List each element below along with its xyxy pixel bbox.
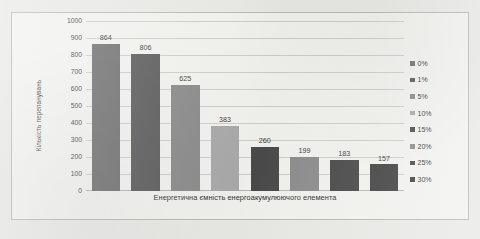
legend-swatch-icon <box>410 127 415 132</box>
legend-item[interactable]: 20% <box>410 138 462 155</box>
bar-slot: 625 <box>171 21 200 191</box>
y-axis-tick-label: 0 <box>40 188 82 195</box>
bar <box>330 160 359 191</box>
legend-swatch-icon <box>410 161 415 166</box>
y-axis-tick-label: 700 <box>40 69 82 76</box>
y-axis-tick-label: 800 <box>40 52 82 59</box>
bar-value-label: 806 <box>140 44 152 51</box>
y-axis-tick-label: 900 <box>40 35 82 42</box>
bar-value-label: 383 <box>219 116 231 123</box>
y-axis-tick-label: 300 <box>40 137 82 144</box>
legend-item-label: 0% <box>418 60 428 67</box>
legend-swatch-icon <box>410 61 415 66</box>
legend-swatch-icon <box>410 78 415 83</box>
legend-item[interactable]: 10% <box>410 105 462 122</box>
y-axis-tick-label: 600 <box>40 86 82 93</box>
y-axis-tick-label: 200 <box>40 154 82 161</box>
bar-slot: 806 <box>131 21 160 191</box>
legend-item[interactable]: 25% <box>410 155 462 172</box>
bar-series: 864806625383260199183157 <box>86 21 404 191</box>
legend-item[interactable]: 15% <box>410 121 462 138</box>
bar <box>171 85 200 191</box>
legend-swatch-icon <box>410 111 415 116</box>
legend-item-label: 1% <box>418 76 428 83</box>
y-axis-tick-label: 500 <box>40 103 82 110</box>
legend-swatch-icon <box>410 177 415 182</box>
bar-value-label: 260 <box>259 137 271 144</box>
chart-plot-wrapper: Кількість перепанувань 10009008007006005… <box>12 13 468 219</box>
y-axis-tick-label: 100 <box>40 171 82 178</box>
chart-container: Кількість перепанувань 10009008007006005… <box>11 12 469 220</box>
legend-swatch-icon <box>410 144 415 149</box>
x-axis-title: Енергетична ємність енергоакумулюючого е… <box>86 193 404 202</box>
bar-slot: 157 <box>370 21 399 191</box>
legend-item[interactable]: 1% <box>410 72 462 89</box>
bar <box>370 164 399 191</box>
legend-item[interactable]: 30% <box>410 171 462 188</box>
bar-slot: 383 <box>211 21 240 191</box>
legend-item-label: 20% <box>418 143 432 150</box>
legend-item-label: 15% <box>418 126 432 133</box>
bar <box>92 44 121 191</box>
legend-item-label: 10% <box>418 110 432 117</box>
y-axis-tick-label: 400 <box>40 120 82 127</box>
chart-legend: 0%1%5%10%15%20%25%30% <box>410 55 462 188</box>
bar-value-label: 157 <box>378 155 390 162</box>
bar-value-label: 199 <box>299 147 311 154</box>
bar-slot: 183 <box>330 21 359 191</box>
bar-value-label: 625 <box>179 75 191 82</box>
legend-item-label: 25% <box>418 159 432 166</box>
plot-area: 864806625383260199183157 <box>86 21 404 191</box>
bar <box>290 157 319 191</box>
bar-value-label: 183 <box>338 150 350 157</box>
y-axis-tick-label: 1000 <box>40 18 82 25</box>
bar-slot: 260 <box>251 21 280 191</box>
legend-item-label: 30% <box>418 176 432 183</box>
legend-item-label: 5% <box>418 93 428 100</box>
y-axis-tick-labels: 10009008007006005004003002001000 <box>40 21 82 191</box>
bar-value-label: 864 <box>100 34 112 41</box>
legend-swatch-icon <box>410 94 415 99</box>
bar <box>131 54 160 191</box>
bar-slot: 199 <box>290 21 319 191</box>
legend-item[interactable]: 0% <box>410 55 462 72</box>
bar <box>211 126 240 191</box>
bar <box>251 147 280 191</box>
legend-item[interactable]: 5% <box>410 88 462 105</box>
bar-slot: 864 <box>92 21 121 191</box>
